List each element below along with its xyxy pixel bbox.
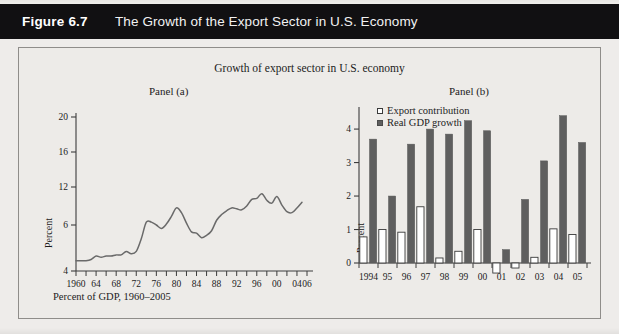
svg-text:76: 76 bbox=[152, 279, 162, 289]
figure-title: The Growth of the Export Sector in U.S. … bbox=[115, 14, 418, 29]
svg-text:96: 96 bbox=[252, 279, 262, 289]
svg-text:72: 72 bbox=[132, 279, 142, 289]
svg-text:00: 00 bbox=[478, 272, 488, 282]
svg-text:4: 4 bbox=[346, 124, 351, 134]
svg-text:95: 95 bbox=[383, 272, 393, 282]
figure-number: Figure 6.7 bbox=[22, 14, 88, 29]
figure-body: Growth of export sector in U.S. economy … bbox=[0, 39, 619, 334]
svg-text:03: 03 bbox=[535, 272, 545, 282]
svg-text:20: 20 bbox=[59, 112, 69, 122]
panel-b-plot: 0123419949596979899000102030405 bbox=[315, 103, 600, 318]
svg-text:80: 80 bbox=[172, 279, 182, 289]
svg-text:1960: 1960 bbox=[67, 279, 86, 289]
svg-text:96: 96 bbox=[402, 272, 412, 282]
svg-text:6: 6 bbox=[63, 220, 68, 230]
svg-text:88: 88 bbox=[212, 279, 222, 289]
svg-text:92: 92 bbox=[232, 279, 242, 289]
svg-text:00: 00 bbox=[272, 279, 282, 289]
svg-text:1994: 1994 bbox=[359, 272, 378, 282]
figure-page: Figure 6.7 The Growth of the Export Sect… bbox=[0, 0, 619, 334]
svg-text:04: 04 bbox=[554, 272, 564, 282]
figure-frame: Growth of export sector in U.S. economy … bbox=[18, 47, 601, 319]
figure-caption: Percent of GDP, 1960–2005 bbox=[53, 291, 171, 302]
figure-header-bar: Figure 6.7 The Growth of the Export Sect… bbox=[0, 4, 619, 39]
svg-text:68: 68 bbox=[111, 279, 121, 289]
svg-text:64: 64 bbox=[91, 279, 101, 289]
panel-a-label: Panel (a) bbox=[149, 85, 188, 97]
svg-text:97: 97 bbox=[421, 272, 431, 282]
panel-b-label: Panel (b) bbox=[449, 85, 489, 97]
svg-text:05: 05 bbox=[573, 272, 583, 282]
svg-text:4: 4 bbox=[63, 266, 68, 276]
svg-text:84: 84 bbox=[192, 279, 202, 289]
chart-title: Growth of export sector in U.S. economy bbox=[19, 62, 600, 74]
svg-text:99: 99 bbox=[459, 272, 469, 282]
panel-a-plot: 201612641960646872768084889296000406 bbox=[29, 103, 319, 318]
svg-text:1: 1 bbox=[346, 225, 351, 235]
svg-text:0: 0 bbox=[346, 258, 351, 268]
svg-text:98: 98 bbox=[440, 272, 450, 282]
svg-text:04: 04 bbox=[292, 279, 302, 289]
svg-text:3: 3 bbox=[346, 158, 351, 168]
svg-text:06: 06 bbox=[302, 279, 312, 289]
svg-text:12: 12 bbox=[59, 182, 69, 192]
svg-text:02: 02 bbox=[516, 272, 526, 282]
svg-text:01: 01 bbox=[497, 272, 507, 282]
svg-text:16: 16 bbox=[59, 147, 69, 157]
svg-text:2: 2 bbox=[346, 191, 351, 201]
